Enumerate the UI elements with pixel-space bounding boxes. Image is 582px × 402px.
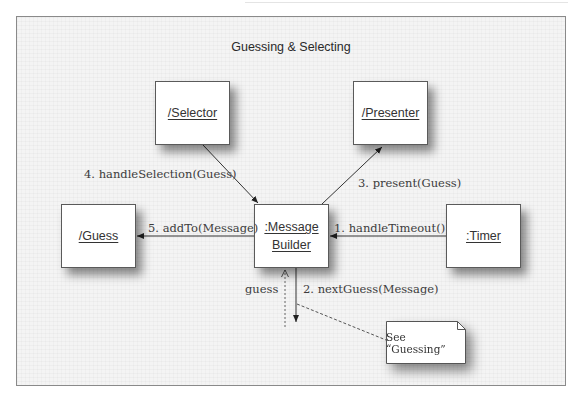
message-label-next-guess: 2. nextGuess(Message) [303,282,439,296]
note-see-guessing: See “Guessing” [386,321,466,364]
object-message-builder-label-line2: Builder [272,236,311,254]
message-label-handle-timeout: 1. handleTimeout() [334,221,445,235]
object-timer-label: :Timer [466,227,501,245]
object-selector: /Selector [155,81,230,145]
connector-lines [0,0,582,402]
object-timer: :Timer [446,204,521,268]
message-label-add-to: 5. addTo(Message) [148,221,258,235]
object-selector-label: /Selector [168,104,217,122]
return-label-guess: guess [245,282,278,296]
object-message-builder-label-line1: :Message [264,218,318,236]
object-presenter: /Presenter [353,81,428,145]
object-guess: /Guess [61,204,136,268]
message-label-handle-selection: 4. handleSelection(Guess) [84,167,237,181]
object-guess-label: /Guess [79,227,119,245]
message-label-present: 3. present(Guess) [358,176,461,190]
note-connector [297,304,386,340]
object-message-builder: :Message Builder [254,204,329,268]
object-presenter-label: /Presenter [362,104,420,122]
note-text: See “Guessing” [386,321,466,364]
